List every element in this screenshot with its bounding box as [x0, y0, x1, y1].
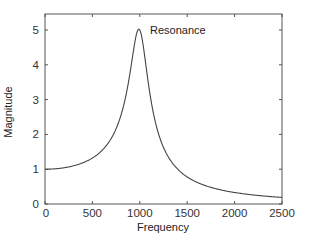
x-axis-label: Frequency	[137, 221, 189, 233]
y-tick-label: 4	[33, 59, 40, 71]
axis-tick-labels: 05001000150020002500012345	[33, 24, 295, 219]
resonance-annotation: Resonance	[150, 24, 206, 36]
y-axis-label: Magnitude	[2, 86, 14, 137]
x-tick-label: 2000	[222, 207, 248, 219]
x-tick-label: 500	[83, 207, 102, 219]
y-tick-label: 2	[33, 128, 39, 140]
x-tick-label: 2500	[269, 207, 295, 219]
y-tick-label: 1	[33, 163, 39, 175]
plot-area: 05001000150020002500012345 Resonance	[33, 14, 295, 219]
y-tick-label: 3	[33, 94, 39, 106]
x-tick-label: 0	[43, 207, 49, 219]
magnitude-frequency-chart: 05001000150020002500012345 Resonance Fre…	[0, 0, 310, 244]
x-tick-label: 1000	[127, 207, 153, 219]
magnitude-curve	[45, 29, 282, 197]
axis-ticks	[45, 14, 282, 204]
y-tick-label: 5	[33, 24, 39, 36]
axes-box	[45, 14, 282, 204]
y-tick-label: 0	[33, 198, 39, 210]
x-tick-label: 1500	[174, 207, 200, 219]
